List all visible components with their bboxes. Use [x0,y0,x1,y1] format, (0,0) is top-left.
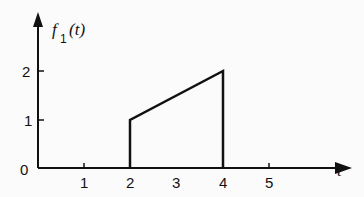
x-tick-label-5: 5 [265,174,273,191]
origin-label: 0 [20,161,28,178]
y-tick-label-1: 1 [24,112,32,129]
x-tick-label-2: 2 [126,174,134,191]
plot-area: f 1 (t) 2 1 0 1 2 3 4 5 t [0,0,364,197]
y-axis-label-f: f [52,20,59,39]
y-axis-label-arg: (t) [69,20,85,39]
x-tick-label-4: 4 [219,174,227,191]
f1-curve [130,71,223,168]
x-tick-label-3: 3 [172,174,180,191]
y-axis-label-sub: 1 [60,32,67,46]
y-axis-arrow-icon [33,12,43,27]
x-tick-label-1: 1 [80,174,88,191]
y-tick-label-2: 2 [22,63,30,80]
